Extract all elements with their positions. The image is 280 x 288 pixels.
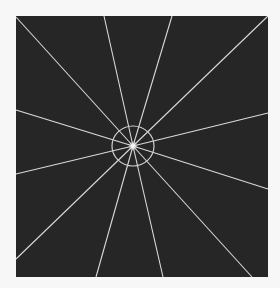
- dark-panel: [16, 16, 268, 277]
- center-glow-point: [128, 141, 138, 151]
- radial-burst-figure: [0, 0, 280, 288]
